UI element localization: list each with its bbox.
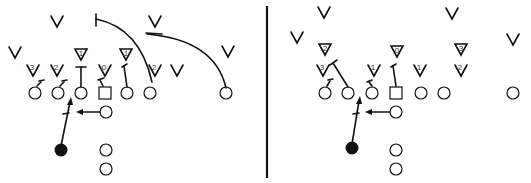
arrow-head <box>356 96 362 104</box>
diagram-canvas: 3202113112203 <box>0 0 531 183</box>
block-line <box>393 66 396 86</box>
defender-v-icon <box>51 16 63 27</box>
offensive-player-icon <box>438 87 450 99</box>
play-diagram: 3202113112203 <box>0 0 531 183</box>
offensive-player-icon <box>121 87 133 99</box>
defender-v-icon <box>318 7 330 18</box>
offensive-player-icon <box>390 106 402 118</box>
defender-v-icon <box>291 32 303 43</box>
ball-carrier-icon <box>55 144 68 157</box>
defender-v-icon <box>446 8 458 19</box>
handoff-mark <box>353 113 359 114</box>
defender-v-icon <box>222 46 234 57</box>
block-bar <box>328 79 333 80</box>
block-line <box>60 82 64 86</box>
offensive-player-icon <box>29 87 41 99</box>
offensive-player-icon <box>342 87 354 99</box>
arrow-head <box>365 109 372 115</box>
players-layer: 3202113112203 <box>9 6 519 178</box>
defender-label: 2 <box>152 63 157 72</box>
offensive-player-icon <box>100 106 112 118</box>
center-square-icon <box>390 87 402 99</box>
block-bar <box>367 80 372 82</box>
ball-carrier-icon <box>346 142 359 155</box>
offensive-player-icon <box>100 144 112 156</box>
block-line <box>100 80 103 86</box>
defender-v-icon <box>171 65 183 76</box>
block-line <box>369 82 372 86</box>
offensive-player-icon <box>319 87 331 99</box>
offensive-player-icon <box>220 87 232 99</box>
arrow-head <box>76 109 83 115</box>
offensive-player-icon <box>390 144 402 156</box>
defender-label: 1 <box>417 63 422 72</box>
defender-label: 2 <box>54 63 59 72</box>
defender-label: 3 <box>320 63 325 72</box>
run-path <box>61 102 70 146</box>
left-panel-lines <box>37 14 226 146</box>
defender-v-icon <box>149 16 161 27</box>
center-square-icon <box>99 87 111 99</box>
offensive-player-icon <box>390 163 402 175</box>
offensive-player-icon <box>100 163 112 175</box>
block-bar <box>98 78 104 80</box>
offensive-player-icon <box>507 87 519 99</box>
arrow-head <box>67 97 73 105</box>
defender-label: 1 <box>79 49 84 58</box>
defender-label: 1 <box>371 63 376 72</box>
handoff-mark <box>63 113 69 114</box>
defender-v-icon <box>507 34 519 45</box>
offensive-player-icon <box>415 87 427 99</box>
block-line <box>124 66 127 87</box>
defender-label: 2 <box>323 44 328 53</box>
block-line <box>327 81 330 86</box>
block-line <box>37 82 41 86</box>
offensive-player-icon <box>366 87 378 99</box>
run-path <box>352 101 359 144</box>
defender-v-icon <box>9 47 21 58</box>
block-bar <box>39 80 44 81</box>
block-bar <box>62 80 67 81</box>
defender-label: 0 <box>102 63 107 72</box>
offensive-player-icon <box>52 87 64 99</box>
right-panel-lines <box>327 60 396 144</box>
defender-label: 3 <box>459 44 464 53</box>
defender-label: 1 <box>124 49 129 58</box>
defender-label: 3 <box>30 63 35 72</box>
block-bar <box>146 33 162 34</box>
defender-label: 0 <box>395 46 400 55</box>
block-line <box>333 63 348 87</box>
offensive-player-icon <box>144 87 156 99</box>
defender-label: 2 <box>458 63 463 72</box>
curve-route-2 <box>147 34 226 88</box>
offensive-player-icon <box>75 87 87 99</box>
